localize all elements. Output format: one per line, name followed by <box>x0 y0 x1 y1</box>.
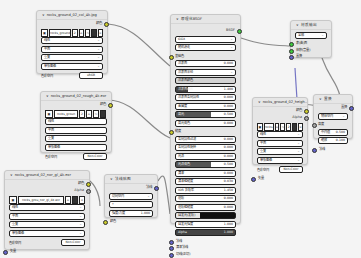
interpolation-dropdown[interactable]: 线性⌄ <box>41 37 103 44</box>
input-subsurface-ior[interactable]: 次表面IOR1.400 <box>175 86 236 93</box>
unlink-icon[interactable]: × <box>298 123 303 131</box>
extension-dropdown[interactable]: 重复 <box>45 135 107 142</box>
new-image-icon[interactable]: ⎘ <box>85 29 90 37</box>
image-texture-node-diffuse[interactable]: ∨rocks_ground_02_col_4k.jpg 颜色 ▣ rocks_g… <box>36 10 108 74</box>
strength-field[interactable]: 强度/力度1.000 <box>109 210 153 217</box>
socket-in[interactable] <box>169 55 174 60</box>
extension-dropdown[interactable]: 重复⌄ <box>9 221 85 228</box>
space-dropdown[interactable]: 切向空间⌄ <box>109 193 153 200</box>
subsurface-method-dropdown[interactable]: 随机游走⌄ <box>175 44 236 51</box>
principled-bsdf-node[interactable]: ∨原理化BSDF BSDF GGX⌄ 随机游走⌄ 基础色 次表面0.000 次表… <box>170 14 241 224</box>
uv-map-field[interactable]: • <box>109 201 153 208</box>
source-dropdown[interactable]: 单张图像⌄ <box>257 157 303 164</box>
projection-dropdown[interactable]: 平面⌄ <box>41 46 103 53</box>
socket-displacement-out[interactable] <box>349 106 354 111</box>
node-header[interactable]: ∨材质输出 <box>291 21 331 30</box>
collapse-icon[interactable]: ∨ <box>296 23 299 27</box>
projection-dropdown[interactable]: 平面 <box>45 127 107 134</box>
input-emission-strength[interactable]: 自发光强度1.000 <box>175 221 236 228</box>
extension-dropdown[interactable]: 重复⌄ <box>257 148 303 155</box>
node-header[interactable]: ∨原理化BSDF <box>171 15 240 24</box>
input-metallic[interactable]: 金属度0.000 <box>175 103 236 110</box>
image-browse-icon[interactable]: ▣ <box>257 123 263 131</box>
image-users-count[interactable]: 2 <box>79 110 85 118</box>
input-ior[interactable]: IOR 折射率1.450 <box>175 187 236 194</box>
collapse-icon[interactable]: ∨ <box>10 173 13 177</box>
node-header[interactable]: ∨rocks_ground_02_col_4k.jpg <box>37 11 107 20</box>
input-subsurface-anisotropy[interactable]: 次表面各向异性0.000 <box>175 94 236 101</box>
node-header[interactable]: ∨rocks_ground_02_rough_4k.exr <box>41 92 111 101</box>
image-selector[interactable]: ▣ rocks ⌂ ⎘ 2 × <box>257 123 303 129</box>
new-image-icon[interactable]: ⎘ <box>93 110 99 118</box>
socket-in[interactable] <box>312 148 317 153</box>
colorspace-select[interactable]: Non-Color <box>83 153 107 160</box>
input-transmission-roughness[interactable]: 透射粗糙度0.000 <box>175 204 236 211</box>
image-name-field[interactable]: rocks <box>264 123 274 131</box>
image-name-field[interactable]: rocks_groun <box>54 110 78 118</box>
socket-color-in[interactable] <box>103 220 108 225</box>
socket-vector-in[interactable] <box>3 250 8 255</box>
projection-dropdown[interactable]: 平面⌄ <box>257 140 303 147</box>
open-image-icon[interactable] <box>100 110 106 118</box>
image-browse-icon[interactable]: ▣ <box>9 196 17 204</box>
image-name-field[interactable]: rocks_ground <box>49 29 71 37</box>
socket-normal-out[interactable] <box>154 186 159 191</box>
input-subsurface-radius[interactable]: 次表面半径⌄ <box>175 69 236 76</box>
normal-map-node[interactable]: ∨法线贴图 法线 切向空间⌄ • 强度/力度1.000 颜色 <box>104 174 158 218</box>
node-header[interactable]: ∨置换 <box>314 95 352 104</box>
image-selector[interactable]: ▣ rocks_ground 2 ⌂ ⎘ × <box>41 29 103 35</box>
socket-color-out[interactable] <box>108 103 113 108</box>
distribution-dropdown[interactable]: GGX⌄ <box>175 36 236 43</box>
input-specular[interactable]: 高光0.500 <box>175 111 236 118</box>
open-image-icon[interactable] <box>91 29 96 37</box>
interpolation-dropdown[interactable]: 线性 <box>45 118 107 125</box>
projection-dropdown[interactable]: 平面⌄ <box>9 213 85 220</box>
image-selector[interactable]: ▣ rocks_grou_nor_gl_4k.exr ⌂ × <box>9 196 85 202</box>
image-texture-node-roughness[interactable]: ∨rocks_ground_02_rough_4k.exr 颜色 ▣ rocks… <box>40 91 112 153</box>
input-anisotropic-rotation[interactable]: 各向异性旋转0.000 <box>175 144 236 151</box>
image-texture-node-height[interactable]: ∨rocks_ground_02_heigh... 颜色 Alpha ▣ roc… <box>252 97 308 165</box>
socket-bsdf-out[interactable] <box>237 29 242 34</box>
image-selector[interactable]: ▣ rocks_groun 2 ⌂ ⎘ <box>45 110 107 116</box>
fake-user-icon[interactable]: ⌂ <box>79 29 84 37</box>
new-image-icon[interactable]: ⎘ <box>280 123 285 131</box>
input-sheen-tint[interactable]: 光泽染色0.500 <box>175 161 236 168</box>
colorspace-select[interactable]: Non-Color <box>61 239 85 246</box>
socket-alpha-out[interactable] <box>304 116 309 121</box>
node-header[interactable]: ∨rocks_ground_02_heigh... <box>253 98 307 107</box>
open-image-icon[interactable] <box>292 123 297 131</box>
node-header[interactable]: ∨rocks_ground_02_nor_gl_4k.exr <box>5 171 89 180</box>
collapse-icon[interactable]: ∨ <box>258 100 261 104</box>
displacement-node[interactable]: ∨置换 置换 物体空间⌄ 高度 中间值0.500 缩放0.100 法线 <box>313 94 353 139</box>
material-output-node[interactable]: ∨材质输出 全部⌄ 表(曲)面 体积(音量) 置换 <box>290 20 332 58</box>
source-dropdown[interactable]: 单张图像⌄ <box>41 63 103 70</box>
collapse-icon[interactable]: ∨ <box>46 94 49 98</box>
colorspace-select[interactable]: Non-Color <box>279 166 303 173</box>
image-browse-icon[interactable]: ▣ <box>41 29 48 37</box>
input-specular-tint[interactable]: 高光染色0.000 <box>175 120 236 127</box>
collapse-icon[interactable]: ∨ <box>319 97 322 101</box>
input-sheen[interactable]: 光泽0.000 <box>175 153 236 160</box>
source-dropdown[interactable]: 单张图像 <box>45 144 107 151</box>
socket-vector-in[interactable] <box>251 177 256 182</box>
unlink-icon[interactable]: × <box>79 196 85 204</box>
collapse-icon[interactable]: ∨ <box>110 177 113 181</box>
socket-color-out[interactable] <box>104 22 109 27</box>
target-dropdown[interactable]: 全部⌄ <box>295 32 327 39</box>
colorspace-select[interactable]: sRGB <box>79 72 103 79</box>
space-dropdown[interactable]: 物体空间⌄ <box>318 113 348 120</box>
input-anisotropic[interactable]: 各向异性过滤0.000 <box>175 136 236 143</box>
interpolation-dropdown[interactable]: 线性⌄ <box>9 204 85 211</box>
collapse-icon[interactable]: ∨ <box>42 13 45 17</box>
input-clearcoat-roughness[interactable]: 清漆粗糙度0.030 <box>175 178 236 185</box>
interpolation-dropdown[interactable]: 线性⌄ <box>257 131 303 138</box>
users-icon[interactable]: 2 <box>286 123 291 131</box>
fake-user-icon[interactable]: ⌂ <box>65 196 71 204</box>
image-browse-icon[interactable]: ▣ <box>45 110 53 118</box>
input-emission[interactable]: 自发光(发射) <box>175 212 236 219</box>
input-clearcoat[interactable]: 清漆0.000 <box>175 170 236 177</box>
fake-user-icon[interactable]: ⌂ <box>86 110 92 118</box>
socket-in[interactable] <box>289 55 294 60</box>
input-alpha[interactable]: Alpha1.000 <box>175 229 236 236</box>
open-image-icon[interactable] <box>72 196 78 204</box>
